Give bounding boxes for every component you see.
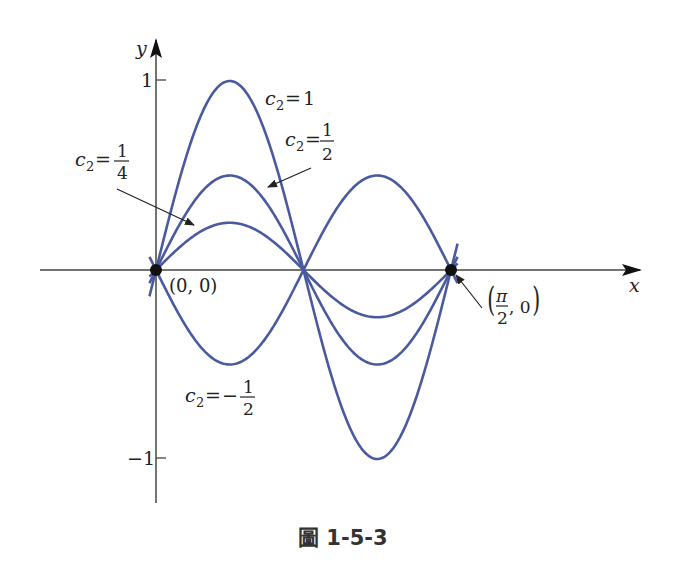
numerator: 1	[117, 141, 128, 161]
minus-sign: −	[222, 384, 238, 406]
right-paren: )	[532, 279, 540, 319]
pi-symbol: π	[495, 286, 508, 306]
pi-half-label: ( π 2 , 0 )	[487, 279, 540, 328]
pi-half-arrow	[456, 275, 482, 308]
pi-half-point	[445, 264, 457, 276]
denominator: 4	[117, 163, 128, 183]
numerator: 1	[243, 377, 254, 397]
subscript: 2	[86, 159, 94, 174]
c-symbol: c	[185, 384, 196, 406]
equals: =	[305, 128, 321, 150]
value: 1	[303, 87, 315, 109]
chart-figure: y x 1 −1 (0, 0) ( π 2 , 0 ) c 2 = 1 c 2 …	[0, 0, 677, 566]
label-c2-neg-half: c 2 = − 1 2	[185, 377, 255, 419]
c-symbol: c	[285, 128, 296, 150]
denominator: 2	[322, 144, 333, 164]
origin-point	[150, 264, 162, 276]
c-symbol: c	[265, 87, 276, 109]
y-tick-label-neg1: −1	[127, 447, 155, 469]
equals: =	[285, 87, 301, 109]
y-tick-label-1: 1	[141, 69, 153, 91]
equals: =	[205, 384, 221, 406]
numerator: 1	[322, 120, 333, 140]
label-c2-1: c 2 = 1	[265, 87, 315, 113]
y-axis-label: y	[135, 37, 147, 59]
label-c2-half: c 2 = 1 2	[285, 120, 334, 164]
subscript: 2	[196, 395, 204, 410]
left-paren: (	[487, 279, 495, 319]
subscript: 2	[276, 98, 284, 113]
subscript: 2	[296, 139, 304, 154]
label-c2-quarter: c 2 = 1 4	[75, 141, 129, 183]
x-axis-label: x	[629, 274, 640, 296]
equals: =	[95, 148, 111, 170]
axes	[40, 40, 640, 503]
pi-half-zero: , 0	[509, 297, 531, 317]
figure-caption: 圖 1-5-3	[298, 526, 388, 550]
arrow-c2-half	[268, 168, 311, 187]
pi-denominator: 2	[497, 308, 508, 328]
origin-label: (0, 0)	[169, 275, 217, 296]
c-symbol: c	[75, 148, 86, 170]
denominator: 2	[243, 399, 254, 419]
